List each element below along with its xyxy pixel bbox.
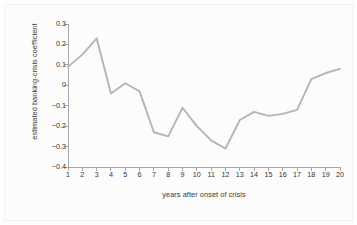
y-axis-title: estimated banking-crisis coefficient [30,2,39,162]
y-tick-label: −0.4 [42,163,66,170]
figure-container: 0.30.20.10−0.1−0.2−0.3−0.4 1234567891011… [0,0,357,225]
y-tick-label: 0.1 [42,61,66,68]
data-series-line [68,38,340,148]
y-tick-label: 0 [42,81,66,88]
y-tick-label: 0.2 [42,40,66,47]
x-axis-title: years after onset of crisis [68,190,340,199]
x-tick-label: 20 [332,171,348,178]
y-axis-tick-labels: 0.30.20.10−0.1−0.2−0.3−0.4 [42,0,66,225]
y-tick-label: −0.1 [42,102,66,109]
chart-plot-area: 0.30.20.10−0.1−0.2−0.3−0.4 1234567891011… [0,0,357,225]
y-tick-label: −0.2 [42,122,66,129]
y-tick-label: −0.3 [42,143,66,150]
y-tick-label: 0.3 [42,20,66,27]
